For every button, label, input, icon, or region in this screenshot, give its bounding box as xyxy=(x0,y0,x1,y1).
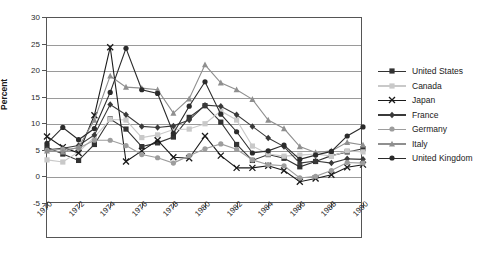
x-axis-tick-label: 1978 xyxy=(161,199,180,218)
data-point-marker xyxy=(265,135,271,142)
y-axis-tick-label: 20 xyxy=(18,66,40,75)
data-point-marker xyxy=(171,131,176,136)
legend-label: Italy xyxy=(412,139,428,149)
data-point-marker xyxy=(44,157,49,162)
data-point-marker xyxy=(60,125,65,130)
data-point-marker xyxy=(360,160,365,165)
x-axis-tick-label: 1976 xyxy=(130,199,149,218)
legend-marker-diamond-icon xyxy=(388,111,396,119)
data-point-marker xyxy=(123,143,128,148)
data-point-marker xyxy=(107,101,113,108)
data-point-marker xyxy=(139,135,144,140)
plot-area xyxy=(46,17,362,203)
data-point-marker xyxy=(139,152,144,157)
data-point-marker xyxy=(155,132,160,137)
data-point-marker xyxy=(171,160,176,165)
legend-marker-circle-icon xyxy=(388,125,396,133)
legend-label: United Kingdom xyxy=(412,153,472,163)
data-point-marker xyxy=(281,154,286,159)
data-point-marker xyxy=(250,123,256,130)
data-point-marker xyxy=(344,139,350,145)
x-axis-tick-label: 1974 xyxy=(98,199,117,218)
data-point-marker xyxy=(345,148,350,153)
data-point-marker xyxy=(360,149,365,154)
data-point-marker xyxy=(139,123,145,130)
data-point-marker xyxy=(329,160,335,167)
data-point-marker xyxy=(187,104,192,109)
data-point-marker xyxy=(123,126,128,131)
legend-swatch-circle-icon xyxy=(378,124,406,134)
legend-item-france[interactable]: France xyxy=(378,108,490,123)
legend-swatch-square-icon xyxy=(378,81,406,91)
data-point-marker xyxy=(329,149,334,154)
data-point-marker xyxy=(186,96,192,102)
x-axis-tick-label: 1980 xyxy=(193,199,212,218)
data-point-marker xyxy=(313,174,318,179)
data-point-marker xyxy=(202,121,207,126)
data-point-marker xyxy=(234,142,239,147)
data-point-marker xyxy=(266,162,271,167)
x-axis-label-band: 1970197219741976197819801982198419861988… xyxy=(46,203,362,238)
data-point-marker xyxy=(139,87,144,92)
data-point-marker xyxy=(76,137,81,142)
y-axis-tick-label: 0 xyxy=(18,172,40,181)
data-point-marker xyxy=(329,154,334,159)
legend-item-canada[interactable]: Canada xyxy=(378,79,490,94)
data-point-marker xyxy=(202,133,208,139)
series-layer xyxy=(47,18,363,204)
y-axis-tick-label: 25 xyxy=(18,39,40,48)
data-point-marker xyxy=(218,112,223,117)
data-point-marker xyxy=(202,79,207,84)
data-point-marker xyxy=(187,153,192,158)
legend-swatch-triangle-icon xyxy=(378,139,406,149)
legend-marker-square-icon xyxy=(388,82,396,90)
data-point-marker xyxy=(234,111,240,118)
legend-item-united-states[interactable]: United States xyxy=(378,64,490,79)
data-point-marker xyxy=(107,73,113,79)
data-point-marker xyxy=(202,62,208,68)
data-point-marker xyxy=(329,168,334,173)
data-point-marker xyxy=(108,138,113,143)
data-point-marker xyxy=(155,124,161,131)
legend: United StatesCanadaJapanFranceGermanyIta… xyxy=(378,64,490,166)
data-point-marker xyxy=(108,117,113,122)
x-axis-tick-label: 1990 xyxy=(351,199,370,218)
x-axis-tick-label: 1982 xyxy=(225,199,244,218)
x-axis-tick-label: 1986 xyxy=(288,199,307,218)
data-point-marker xyxy=(281,125,287,131)
data-point-marker xyxy=(249,96,255,102)
data-point-marker xyxy=(202,146,207,151)
data-point-marker xyxy=(123,117,128,122)
legend-item-japan[interactable]: Japan xyxy=(378,93,490,108)
legend-swatch-square-icon xyxy=(378,66,406,76)
legend-label: Japan xyxy=(412,95,435,105)
data-point-marker xyxy=(266,148,271,153)
data-point-marker xyxy=(250,143,255,148)
data-point-marker xyxy=(218,153,224,159)
legend-item-germany[interactable]: Germany xyxy=(378,122,490,137)
y-axis-tick-label: 10 xyxy=(18,119,40,128)
data-point-marker xyxy=(92,126,97,131)
legend-marker-triangle-icon xyxy=(388,140,396,148)
data-point-marker xyxy=(123,46,128,51)
x-axis-tick-label: 1984 xyxy=(256,199,275,218)
legend-swatch-x-icon xyxy=(378,95,406,105)
legend-marker-x-icon xyxy=(388,96,396,104)
legend-label: United States xyxy=(412,66,463,76)
data-point-marker xyxy=(234,147,239,152)
data-point-marker xyxy=(218,120,223,125)
data-point-marker xyxy=(360,124,365,129)
x-axis-tick-label: 1988 xyxy=(319,199,338,218)
legend-item-italy[interactable]: Italy xyxy=(378,137,490,152)
data-point-marker xyxy=(108,90,113,95)
legend-item-united-kingdom[interactable]: United Kingdom xyxy=(378,151,490,166)
legend-swatch-circle-icon xyxy=(378,153,406,163)
data-point-marker xyxy=(345,160,350,165)
data-point-marker xyxy=(76,158,81,163)
legend-label: Germany xyxy=(412,124,447,134)
data-point-marker xyxy=(44,134,50,140)
y-axis-tick-label: 30 xyxy=(18,13,40,22)
data-point-marker xyxy=(297,175,302,180)
legend-swatch-diamond-icon xyxy=(378,110,406,120)
data-point-marker xyxy=(44,141,49,146)
